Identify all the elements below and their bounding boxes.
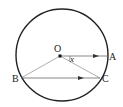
point-o [59, 55, 62, 58]
label-o: O [54, 43, 61, 54]
arrow-oa [93, 54, 99, 58]
angle-label-x: x [69, 54, 74, 64]
circle-diagram: O A B C x [0, 0, 123, 107]
arrow-bc [78, 76, 84, 80]
label-c: C [102, 73, 109, 84]
segment-oc [60, 56, 100, 78]
label-a: A [109, 51, 117, 62]
segment-ob [21, 56, 60, 78]
label-b: B [12, 73, 19, 84]
